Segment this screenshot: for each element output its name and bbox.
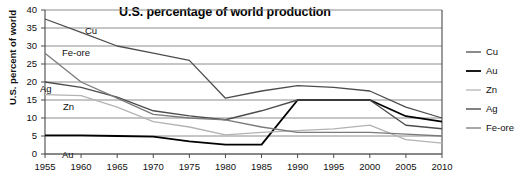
x-tick-label: 1995 [323, 161, 344, 172]
y-tick-label: 10 [26, 112, 37, 123]
chart-legend: CuAuZnAgFe-ore [466, 46, 514, 133]
x-tick-label: 1960 [71, 161, 92, 172]
legend-label-feore: Fe-ore [486, 122, 514, 133]
inline-label-zn: Zn [63, 101, 74, 112]
y-tick-label: 40 [26, 4, 37, 15]
y-tick-label: 0 [32, 148, 37, 159]
x-axis-tick-labels: 1955196019651970197519801985199019952000… [34, 161, 452, 172]
y-tick-label: 15 [26, 94, 37, 105]
x-tick-label: 1955 [34, 161, 55, 172]
y-tick-label: 5 [32, 130, 37, 141]
y-tick-label: 20 [26, 76, 37, 87]
inline-label-cu: Cu [85, 25, 97, 36]
x-tick-label: 1975 [179, 161, 200, 172]
series-line-au [45, 100, 442, 145]
inline-label-feore: Fe-ore [62, 47, 90, 58]
x-tick-label: 2005 [395, 161, 416, 172]
x-tick-label: 1970 [143, 161, 164, 172]
y-tick-label: 25 [26, 58, 37, 69]
inline-series-labels: CuFe-oreAgZnAu [40, 25, 97, 160]
inline-label-ag: Ag [40, 83, 52, 94]
y-tick-label: 35 [26, 22, 37, 33]
y-axis-tick-labels: 0510152025303540 [26, 4, 37, 159]
x-tick-label: 1990 [287, 161, 308, 172]
x-tick-label: 1965 [107, 161, 128, 172]
x-tick-label: 2010 [431, 161, 452, 172]
y-tick-label: 30 [26, 40, 37, 51]
legend-label-au: Au [486, 65, 498, 76]
legend-label-zn: Zn [486, 84, 497, 95]
x-tick-label: 2000 [359, 161, 380, 172]
x-tick-label: 1985 [251, 161, 272, 172]
legend-label-ag: Ag [486, 103, 498, 114]
legend-label-cu: Cu [486, 46, 498, 57]
inline-label-au: Au [62, 149, 74, 160]
chart-container: U.S. percentage of world production U.S.… [0, 0, 528, 188]
line-chart-plot: 0510152025303540 19551960196519701975198… [0, 0, 528, 188]
x-tick-label: 1980 [215, 161, 236, 172]
